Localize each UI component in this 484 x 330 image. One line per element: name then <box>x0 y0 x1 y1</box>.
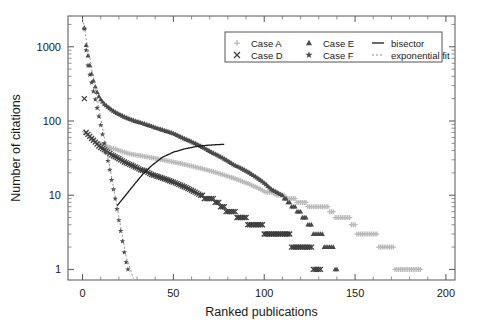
legend-label: Case D <box>251 50 283 61</box>
marker-cross <box>82 96 87 101</box>
legend-label: Case F <box>323 50 354 61</box>
y-tick-label: 1000 <box>37 41 61 53</box>
y-tick-label: 10 <box>49 189 61 201</box>
y-axis-title: Number of citations <box>9 94 23 202</box>
x-tick-label: 0 <box>79 287 85 299</box>
marker-star <box>109 177 114 182</box>
marker-star <box>105 158 110 163</box>
marker-triangle <box>85 53 90 58</box>
x-axis-title: Ranked publications <box>205 305 318 319</box>
legend-label: Case A <box>251 38 282 49</box>
x-tick-label: 150 <box>346 287 364 299</box>
marker-star <box>120 238 125 243</box>
chart-figure: 0501001502001101001000Ranked publication… <box>0 0 484 330</box>
legend-label: exponential fit <box>391 50 450 61</box>
y-tick-label: 1 <box>55 263 61 275</box>
legend-label: bisector <box>391 38 424 49</box>
series-case-a <box>82 129 423 272</box>
marker-star <box>100 132 105 137</box>
x-tick-label: 50 <box>167 287 179 299</box>
marker-star <box>122 249 127 254</box>
y-tick-label: 100 <box>43 115 61 127</box>
legend: Case ACase EbisectorCase DCase Fexponent… <box>225 32 450 62</box>
x-tick-label: 200 <box>437 287 455 299</box>
x-tick-label: 100 <box>255 287 273 299</box>
marker-star <box>116 217 121 222</box>
marker-star <box>123 259 128 264</box>
legend-label: Case E <box>323 38 354 49</box>
marker-star <box>83 47 88 52</box>
chart-canvas: 0501001502001101001000Ranked publication… <box>0 0 484 330</box>
series-case-d <box>82 96 323 272</box>
